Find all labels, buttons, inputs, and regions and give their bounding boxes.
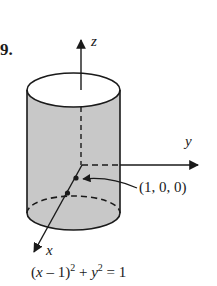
- cylinder-top: [27, 73, 120, 107]
- cylinder-body: [27, 90, 120, 230]
- point-x-axis: [65, 190, 70, 195]
- equation: (x – 1)2 + y2 = 1: [31, 262, 126, 281]
- x-axis-label: x: [46, 242, 53, 259]
- y-axis-label: y: [185, 133, 192, 150]
- point-label: (1, 0, 0): [139, 179, 187, 196]
- problem-number: 9.: [0, 40, 13, 60]
- z-axis-label: z: [91, 33, 97, 50]
- point-1-0-0: [73, 175, 78, 180]
